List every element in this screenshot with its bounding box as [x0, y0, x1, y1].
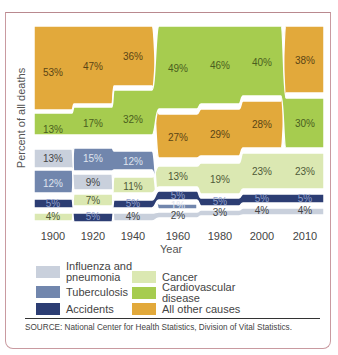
percent-label: 19%	[210, 174, 230, 185]
percent-label: 9%	[86, 177, 101, 188]
percent-label: 13%	[168, 171, 188, 182]
percent-label: 13%	[43, 124, 63, 135]
percent-label: 30%	[295, 118, 315, 129]
percent-label: 23%	[295, 166, 315, 177]
percent-label: 15%	[83, 153, 103, 164]
legend-label: Accidents	[66, 304, 114, 315]
percent-label: 4%	[255, 205, 270, 216]
percent-label: 5%	[86, 211, 101, 222]
divider	[25, 318, 320, 319]
x-axis-label: Year	[160, 243, 182, 255]
legend-label: All other causes	[162, 304, 240, 315]
legend-item-influenza: Influenza andpneumonia	[36, 261, 132, 283]
legend-item-cardiovascular: Cardiovasculardisease	[132, 282, 235, 304]
percent-label: 4%	[126, 211, 141, 222]
percent-label: 32%	[123, 114, 143, 125]
percent-label: 38%	[295, 55, 315, 66]
legend-item-accidents: Accidents	[36, 303, 114, 315]
percent-label: 12%	[123, 156, 143, 167]
percent-label: 40%	[252, 57, 272, 68]
percent-label: 11%	[123, 181, 142, 192]
percent-label: 29%	[210, 129, 230, 140]
source-note: SOURCE: National Center for Health Stati…	[25, 323, 292, 332]
percent-label: 7%	[86, 195, 101, 206]
x-axis-ticks: 1900192019401960198020002010	[41, 230, 317, 242]
percent-label: 27%	[168, 132, 188, 143]
percent-label: 3%	[213, 207, 228, 218]
percent-label: 4%	[46, 211, 61, 222]
legend: Influenza andpneumonia Tuberculosis Acci…	[28, 259, 318, 317]
legend-swatch	[36, 303, 60, 315]
x-tick-label: 1940	[121, 230, 145, 242]
legend-label: Cardiovasculardisease	[162, 282, 235, 304]
percent-label: 13%	[43, 153, 63, 164]
percent-label: 36%	[123, 51, 143, 62]
legend-swatch	[132, 287, 156, 299]
percent-label: 17%	[83, 118, 103, 129]
percent-label: 28%	[252, 119, 272, 130]
legend-item-tuberculosis: Tuberculosis	[36, 286, 128, 298]
x-tick-label: 1960	[166, 230, 190, 242]
legend-label: Influenza andpneumonia	[66, 261, 132, 283]
percent-label: 53%	[43, 67, 63, 78]
legend-item-all-other: All other causes	[132, 303, 240, 315]
x-tick-label: 2000	[250, 230, 274, 242]
percent-label: 4%	[298, 205, 313, 216]
legend-label: Tuberculosis	[66, 287, 128, 298]
percent-label: 5%	[255, 193, 270, 204]
legend-swatch	[36, 286, 60, 298]
x-tick-label: 2010	[293, 230, 317, 242]
percent-label: 12%	[43, 178, 63, 189]
percent-label: 49%	[168, 63, 188, 74]
stacked-area-chart: 53%13%13%12%5%4%47%17%15%9%7%5%36%32%12%…	[0, 0, 338, 255]
legend-swatch	[36, 266, 60, 278]
percent-label: 5%	[46, 198, 61, 209]
percent-label: 2%	[171, 210, 186, 221]
x-tick-label: 1980	[208, 230, 232, 242]
x-tick-label: 1920	[81, 230, 105, 242]
percent-label: 5%	[298, 193, 313, 204]
x-tick-label: 1900	[41, 230, 65, 242]
percent-label: 23%	[252, 166, 272, 177]
percent-label: 46%	[210, 60, 230, 71]
y-axis-label: Percent of all deaths	[15, 53, 27, 183]
percent-label: 5%	[213, 196, 228, 207]
percent-label: 47%	[83, 61, 103, 72]
legend-swatch	[132, 303, 156, 315]
percent-label: 5%	[126, 198, 141, 209]
